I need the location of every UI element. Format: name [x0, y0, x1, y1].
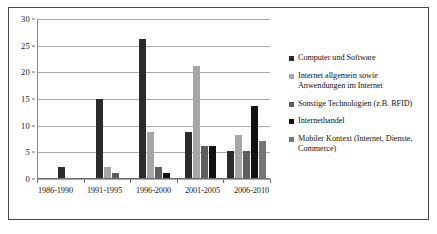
y-tick-label: 10	[21, 121, 30, 131]
y-tick-label: 15	[21, 94, 30, 104]
y-tick-mark	[32, 72, 35, 73]
chart-figure: 051015202530 1986-19901991-19951996-2000…	[0, 0, 437, 234]
bar	[235, 135, 242, 178]
legend-swatch-icon	[289, 102, 294, 107]
legend-label: Internet allgemein sowie Anwendungen im …	[298, 71, 421, 92]
legend-label: Internethandel	[298, 116, 345, 127]
legend-swatch-icon	[289, 137, 294, 142]
x-axis-tick-labels: 1986-19901991-19951996-20002001-20052006…	[31, 186, 276, 195]
bar	[147, 132, 154, 178]
y-axis-tick-labels: 051015202530	[0, 19, 35, 179]
y-tick-mark	[32, 152, 35, 153]
legend-item: Internethandel	[289, 116, 421, 127]
bar	[209, 146, 216, 178]
x-tick-mark	[84, 179, 85, 183]
legend-item: Mobiler Kontext (Internet, Dienste, Comm…	[289, 134, 421, 155]
y-tick-label: 5	[26, 147, 30, 157]
bar	[227, 151, 234, 178]
y-tick-mark	[32, 19, 35, 20]
bar	[112, 173, 119, 178]
bar-group	[131, 19, 177, 178]
x-tick-mark	[223, 179, 224, 183]
legend-item: Computer und Software	[289, 53, 421, 64]
x-tick-label: 2001-2005	[178, 186, 227, 195]
legend-swatch-icon	[289, 119, 294, 124]
bar	[251, 106, 258, 178]
legend-swatch-icon	[289, 74, 294, 79]
x-tick-label: 1991-1995	[80, 186, 129, 195]
bar-group	[177, 19, 223, 178]
bar	[58, 167, 65, 178]
bar	[139, 39, 146, 178]
bar	[193, 66, 200, 178]
bar	[96, 99, 103, 178]
x-tick-mark	[177, 179, 178, 183]
y-tick-label: 25	[21, 41, 30, 51]
legend-item: Sonstige Technologien (z.B. RFID)	[289, 99, 421, 110]
legend-label: Mobiler Kontext (Internet, Dienste, Comm…	[298, 134, 421, 155]
x-tick-mark	[270, 179, 271, 183]
x-tick-label: 2006-2010	[227, 186, 276, 195]
y-tick-label: 20	[21, 67, 30, 77]
y-tick-label: 0	[26, 174, 30, 184]
y-tick-mark	[32, 179, 35, 180]
x-tick-label: 1996-2000	[129, 186, 178, 195]
plot-area	[37, 19, 270, 179]
bar-group	[84, 19, 130, 178]
bar	[185, 132, 192, 178]
x-tick-mark	[130, 179, 131, 183]
bars-layer	[38, 19, 270, 178]
y-tick-mark	[32, 125, 35, 126]
bar	[201, 146, 208, 178]
bar	[163, 173, 170, 178]
y-tick-mark	[32, 45, 35, 46]
y-tick-mark	[32, 99, 35, 100]
bar	[155, 167, 162, 178]
bar-group	[224, 19, 270, 178]
y-tick-label: 30	[21, 14, 30, 24]
chart-legend: Computer und SoftwareInternet allgemein …	[289, 53, 421, 162]
legend-swatch-icon	[289, 56, 294, 61]
legend-label: Sonstige Technologien (z.B. RFID)	[298, 99, 412, 110]
legend-label: Computer und Software	[298, 53, 376, 64]
bar-group	[38, 19, 84, 178]
bar	[259, 141, 266, 178]
bar	[243, 151, 250, 178]
legend-item: Internet allgemein sowie Anwendungen im …	[289, 71, 421, 92]
x-axis-tick-marks	[37, 179, 270, 185]
bar	[104, 167, 111, 178]
x-tick-label: 1986-1990	[31, 186, 80, 195]
x-tick-mark	[37, 179, 38, 183]
